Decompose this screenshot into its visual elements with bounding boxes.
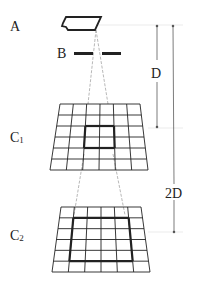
label-c2: C2	[10, 229, 24, 243]
label-2d: 2D	[165, 187, 182, 201]
label-d: D	[151, 67, 161, 81]
grid-c2	[52, 207, 150, 272]
label-c1-main: C	[10, 130, 19, 145]
label-c1-sub: 1	[19, 135, 24, 145]
dimension-2d-arrow	[172, 25, 175, 233]
label-c2-main: C	[10, 228, 19, 243]
label-c2-sub: 2	[19, 233, 24, 243]
label-a: A	[10, 20, 20, 34]
object-a-shape	[62, 17, 101, 30]
label-b: B	[57, 47, 66, 61]
grid-c1	[50, 104, 148, 170]
diagram-canvas	[0, 0, 198, 287]
label-c1: C1	[10, 131, 24, 145]
